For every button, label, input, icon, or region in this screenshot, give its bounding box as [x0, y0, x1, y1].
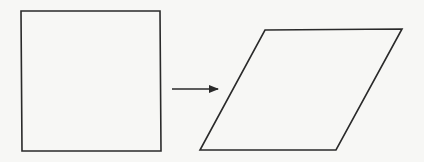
diagram-canvas: Square transformed (sheared) into a para…	[0, 0, 424, 162]
diagram-svg	[0, 0, 424, 162]
square-shape	[21, 11, 161, 151]
parallelogram-shape	[200, 29, 402, 150]
